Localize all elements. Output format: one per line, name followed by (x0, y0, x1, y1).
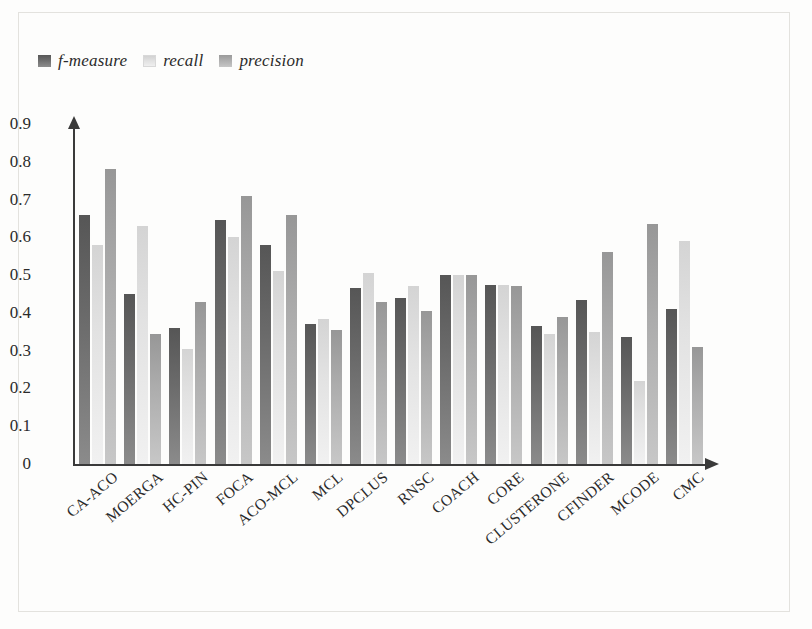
legend-label-precision: precision (239, 51, 303, 71)
legend-item-f-measure: f-measure (38, 51, 127, 71)
y-tick-label: 0.3 (0, 341, 31, 361)
bar-f-measure (666, 309, 677, 464)
y-tick-label: 0.7 (0, 190, 31, 210)
x-axis-category-labels: CA-ACOMOERGAHC-PINFOCAACO-MCLMCLDPCLUSRN… (73, 468, 713, 588)
bar-group (260, 124, 297, 464)
bar-recall (498, 285, 509, 464)
bar-precision (647, 224, 658, 464)
bar-series-container (75, 122, 707, 466)
bar-precision (466, 275, 477, 464)
y-tick-label: 0.9 (0, 114, 31, 134)
y-tick-label: 0.2 (0, 378, 31, 398)
x-tick-label: CMC (669, 468, 708, 505)
legend-swatch-precision (219, 55, 232, 67)
bar-precision (105, 169, 116, 464)
legend-swatch-f-measure (38, 55, 51, 67)
bar-precision (557, 317, 568, 464)
bar-recall (182, 349, 193, 464)
bar-precision (150, 334, 161, 464)
bar-f-measure (215, 220, 226, 464)
bar-group (124, 124, 161, 464)
y-tick-label: 0.1 (0, 416, 31, 436)
bar-recall (273, 271, 284, 464)
bar-recall (228, 237, 239, 464)
y-tick-label: 0 (0, 454, 31, 474)
y-tick-label: 0.5 (0, 265, 31, 285)
bar-recall (363, 273, 374, 464)
bar-recall (318, 319, 329, 464)
bar-f-measure (576, 300, 587, 464)
bar-f-measure (350, 288, 361, 464)
bar-group (440, 124, 477, 464)
bar-recall (137, 226, 148, 464)
bar-group (395, 124, 432, 464)
bar-precision (376, 302, 387, 464)
bar-precision (692, 347, 703, 464)
bar-group (485, 124, 522, 464)
bar-group (169, 124, 206, 464)
bar-recall (679, 241, 690, 464)
bar-recall (544, 334, 555, 464)
bar-f-measure (260, 245, 271, 464)
bar-recall (92, 245, 103, 464)
bar-recall (634, 381, 645, 464)
x-tick-label: HC-PIN (159, 468, 212, 516)
legend-label-f-measure: f-measure (58, 51, 127, 71)
bar-f-measure (395, 298, 406, 464)
bar-precision (511, 286, 522, 464)
bar-group (215, 124, 252, 464)
bar-recall (408, 286, 419, 464)
bar-group (576, 124, 613, 464)
bar-group (305, 124, 342, 464)
bar-precision (421, 311, 432, 464)
bar-group (350, 124, 387, 464)
chart-figure: f-measure recall precision 0.90.80.70.60… (0, 0, 812, 629)
y-tick-label: 0.6 (0, 227, 31, 247)
legend-item-precision: precision (219, 51, 303, 71)
bar-f-measure (531, 326, 542, 464)
bar-group (621, 124, 658, 464)
bar-precision (602, 252, 613, 464)
bar-f-measure (485, 285, 496, 464)
bar-precision (195, 302, 206, 464)
bar-group (79, 124, 116, 464)
y-tick-label: 0.8 (0, 152, 31, 172)
x-tick-label: MCL (309, 468, 347, 504)
bar-precision (286, 215, 297, 464)
x-tick-label: MCODE (607, 468, 663, 519)
bar-precision (241, 196, 252, 464)
bar-precision (331, 330, 342, 464)
bar-f-measure (79, 215, 90, 464)
legend-label-recall: recall (163, 51, 203, 71)
bar-recall (589, 332, 600, 464)
plot-area (73, 122, 713, 466)
bar-group (531, 124, 568, 464)
bar-f-measure (621, 337, 632, 464)
bar-f-measure (124, 294, 135, 464)
bar-f-measure (169, 328, 180, 464)
x-tick-label: COACH (428, 468, 482, 518)
legend-swatch-recall (143, 55, 156, 67)
y-tick-label: 0.4 (0, 303, 31, 323)
legend-item-recall: recall (143, 51, 203, 71)
bar-recall (453, 275, 464, 464)
chart-legend: f-measure recall precision (38, 50, 320, 72)
bar-f-measure (440, 275, 451, 464)
bar-group (666, 124, 703, 464)
bar-f-measure (305, 324, 316, 464)
